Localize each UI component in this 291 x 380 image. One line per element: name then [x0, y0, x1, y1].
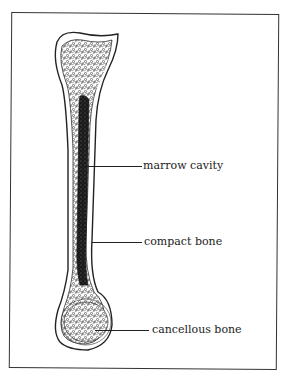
compact-bone-leader [92, 242, 142, 243]
bone-illustration [0, 0, 291, 380]
label-marrow-cavity: marrow cavity [143, 159, 223, 172]
marrow-cavity-leader [86, 166, 142, 167]
label-compact-bone: compact bone [144, 235, 222, 248]
label-cancellous-bone: cancellous bone [152, 323, 242, 336]
cancellous-bone-leader [95, 330, 149, 331]
distal-cancellous-bone [64, 302, 108, 342]
